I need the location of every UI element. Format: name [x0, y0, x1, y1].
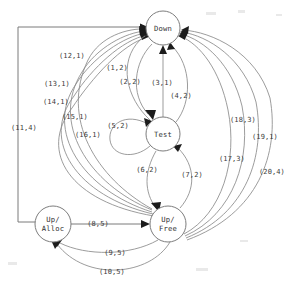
node-up-alloc-label-line2: Alloc	[42, 224, 65, 233]
edge-label-12-1: (12,1)	[59, 52, 85, 60]
edge-8-5	[71, 220, 150, 228]
edge-label-18-3: (18,3)	[230, 116, 256, 124]
node-up-free-label-line2: Free	[159, 224, 177, 233]
edge-label-2-2: (2,2)	[119, 78, 141, 86]
diagram-canvas: Down Test Up/ Alloc Up/ Free (1,2) (2,2)…	[0, 0, 298, 293]
node-down-label: Down	[154, 24, 172, 33]
node-test[interactable]: Test	[146, 117, 180, 151]
edge-12-1	[78, 24, 152, 209]
edge-label-9-5: (9,5)	[104, 249, 126, 257]
edge-label-3-1: (3,1)	[151, 79, 173, 87]
edge-label-7-2: (7,2)	[181, 171, 203, 179]
edge-17-3	[178, 32, 231, 234]
edge-6-2	[147, 151, 161, 212]
edge-label-20-4: (20,4)	[259, 168, 285, 176]
edge-label-17-3: (17,3)	[219, 155, 245, 163]
node-up-alloc[interactable]: Up/ Alloc	[35, 206, 71, 242]
edge-label-19-1: (19,1)	[252, 133, 278, 141]
edge-label-8-5: (8,5)	[87, 220, 109, 228]
state-diagram-figure: Down Test Up/ Alloc Up/ Free (1,2) (2,2)…	[0, 0, 298, 293]
edge-label-11-4: (11,4)	[11, 124, 37, 132]
node-test-label: Test	[154, 130, 172, 139]
edge-label-5-2: (5,2)	[107, 122, 129, 130]
node-up-free-label-line1: Up/	[161, 215, 175, 224]
node-up-free[interactable]: Up/ Free	[150, 206, 186, 242]
edge-1-2	[127, 28, 153, 120]
edge-18-3	[179, 30, 245, 236]
edge-label-14-1: (14,1)	[43, 98, 69, 106]
edge-label-10-5: (10,5)	[99, 268, 125, 276]
edge-label-16-1: (16,1)	[75, 131, 101, 139]
node-down[interactable]: Down	[146, 11, 180, 45]
edge-label-1-2: (1,2)	[106, 64, 128, 72]
edge-label-6-2: (6,2)	[136, 166, 158, 174]
edge-label-15-1: (15,1)	[62, 113, 88, 121]
edge-label-4-2: (4,2)	[170, 92, 192, 100]
edge-label-13-1: (13,1)	[44, 80, 70, 88]
node-up-alloc-label-line1: Up/	[46, 215, 60, 224]
